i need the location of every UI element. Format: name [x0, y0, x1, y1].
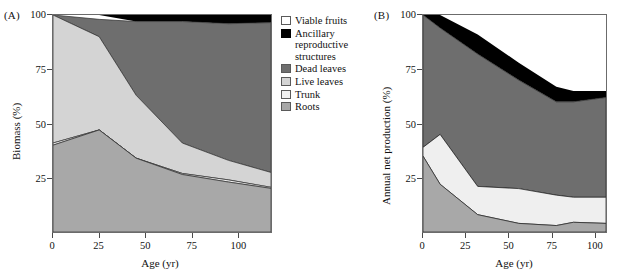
- legend-label-dead-leaves: Dead leaves: [295, 63, 346, 75]
- panel-b-xtick-mark-0: [422, 233, 423, 238]
- panel-a-y-axis-title: Biomass (%): [10, 103, 22, 160]
- figure-container: (A) 100 75 50 25 0 25 50 75 100 Age (yr)…: [0, 0, 619, 275]
- panel-a: (A) 100 75 50 25 0 25 50 75 100 Age (yr)…: [0, 0, 300, 275]
- panel-b-xtick-75: 75: [538, 240, 566, 251]
- panel-b-xtick-mark-100: [595, 233, 596, 238]
- legend-swatch-live-leaves-icon: [281, 77, 291, 86]
- legend-swatch-viable-fruits-icon: [281, 16, 291, 25]
- panel-a-ytick-100: 100: [12, 9, 46, 20]
- panel-a-xtick-mark-100: [238, 233, 239, 238]
- panel-a-xtick-mark-75: [192, 233, 193, 238]
- panel-b-xtick-mark-50: [508, 233, 509, 238]
- panel-b-stacked-area-chart: [423, 15, 606, 232]
- panel-a-ytick-75: 75: [12, 63, 46, 74]
- panel-a-xtick-25: 25: [85, 240, 113, 251]
- panel-b-x-axis-title: Age (yr): [464, 257, 564, 269]
- panel-b-xtick-mark-25: [465, 233, 466, 238]
- panel-b-xtick-mark-75: [552, 233, 553, 238]
- panel-b: (B) 100 75 50 25 0 25 50 75 100 Age (yr)…: [372, 0, 619, 275]
- panel-a-xtick-100: 100: [224, 240, 252, 251]
- panel-a-xtick-75: 75: [178, 240, 206, 251]
- legend-item-viable-fruits: Viable fruits: [281, 15, 373, 27]
- legend-swatch-ancillary-reproductive-structures-icon: [281, 29, 291, 38]
- panel-b-y-axis-title: Annual net production (%): [380, 87, 392, 205]
- panel-a-stacked-area-chart: [53, 15, 271, 232]
- legend-item-ancillary-reproductive-structures: Ancillary reproductive structures: [281, 28, 373, 63]
- panel-b-xtick-0: 0: [408, 240, 436, 251]
- panel-b-ytick-75: 75: [382, 63, 416, 74]
- legend-label-ancillary-reproductive-structures: Ancillary reproductive structures: [295, 28, 348, 63]
- legend-swatch-dead-leaves-icon: [281, 64, 291, 73]
- panel-a-xtick-0: 0: [38, 240, 66, 251]
- legend-item-dead-leaves: Dead leaves: [281, 63, 373, 75]
- panel-b-xtick-25: 25: [451, 240, 479, 251]
- legend-label-live-leaves: Live leaves: [295, 76, 343, 88]
- panel-a-ytick-25: 25: [12, 173, 46, 184]
- panel-b-xtick-50: 50: [494, 240, 522, 251]
- panel-a-xtick-50: 50: [131, 240, 159, 251]
- panel-a-xtick-mark-50: [145, 233, 146, 238]
- legend-swatch-trunk-icon: [281, 90, 291, 99]
- legend: Viable fruits Ancillary reproductive str…: [281, 15, 373, 114]
- legend-label-roots: Roots: [295, 101, 320, 113]
- legend-label-viable-fruits: Viable fruits: [295, 15, 347, 27]
- panel-b-ytick-100: 100: [382, 9, 416, 20]
- legend-item-trunk: Trunk: [281, 89, 373, 101]
- legend-item-live-leaves: Live leaves: [281, 76, 373, 88]
- panel-a-xtick-mark-0: [52, 233, 53, 238]
- panel-a-plot-area: [52, 14, 272, 233]
- panel-a-x-axis-title: Age (yr): [110, 257, 210, 269]
- panel-b-plot-area: [422, 14, 607, 233]
- legend-swatch-roots-icon: [281, 102, 291, 111]
- panel-a-xtick-mark-25: [99, 233, 100, 238]
- legend-item-roots: Roots: [281, 101, 373, 113]
- panel-b-xtick-100: 100: [581, 240, 609, 251]
- legend-label-trunk: Trunk: [295, 89, 320, 101]
